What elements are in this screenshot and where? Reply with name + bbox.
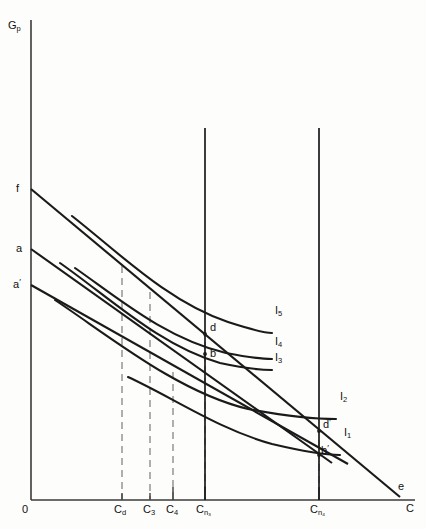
x-axis-label: C xyxy=(406,503,414,514)
marker-b xyxy=(203,352,207,356)
curve-I2 xyxy=(55,300,336,419)
curve-label-I5: I5 xyxy=(275,305,282,316)
curve-I5 xyxy=(72,216,272,333)
curve-label-I2: I2 xyxy=(340,391,347,402)
y-intercept-a-prime: a′ xyxy=(13,279,21,290)
figure-canvas: Gp C 0 f a a′ Cd C3 C4 Cn₃ Cn₄ I5 I4 I3 … xyxy=(0,0,426,529)
marker-d xyxy=(203,332,207,336)
y-intercept-a: a xyxy=(16,243,22,254)
x-tick-label-cn3: Cn₃ xyxy=(196,504,211,515)
y-intercept-f: f xyxy=(16,183,19,194)
x-tick-label-c4: C4 xyxy=(166,504,178,515)
point-label-b: b xyxy=(210,348,216,359)
point-label-d-prime: d′ xyxy=(323,419,331,430)
x-tick-label-c3: C3 xyxy=(143,504,155,515)
budget-line-a-prime xyxy=(31,285,348,464)
budget-line-a xyxy=(31,249,332,463)
point-label-d: d xyxy=(210,322,216,333)
budget-line-f-e xyxy=(31,189,400,497)
indifference-curves xyxy=(55,216,340,455)
marker-d-prime xyxy=(317,429,321,433)
point-label-b-prime: b′ xyxy=(321,445,329,456)
y-axis-label: Gp xyxy=(8,20,21,31)
origin-label: 0 xyxy=(22,504,28,515)
curve-I1 xyxy=(128,377,340,455)
x-axis-ticks xyxy=(122,487,319,500)
point-label-e: e xyxy=(398,481,404,492)
x-tick-label-cn4: Cn₄ xyxy=(310,504,325,515)
curve-label-I1: I1 xyxy=(344,427,351,438)
curve-label-I3: I3 xyxy=(275,352,282,363)
curve-label-I4: I4 xyxy=(275,336,282,347)
x-tick-label-cd: Cd xyxy=(114,504,126,515)
diagram-svg xyxy=(0,0,426,529)
curve-I4 xyxy=(75,268,272,359)
